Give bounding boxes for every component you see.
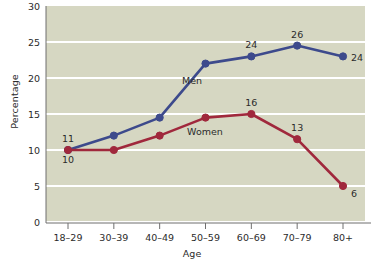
y-tick-label-10: 10 [28, 145, 40, 156]
x-axis-title: Age [0, 248, 384, 259]
value-label-women-5: 13 [291, 122, 303, 133]
data-point-women-2[interactable] [156, 132, 163, 139]
value-label-men-4: 24 [245, 39, 257, 50]
data-point-men-3[interactable] [202, 60, 209, 67]
x-tick-label-4: 60–69 [237, 232, 266, 243]
data-point-men-4[interactable] [248, 53, 255, 60]
data-point-men-5[interactable] [294, 42, 301, 49]
data-point-men-2[interactable] [156, 114, 163, 121]
y-tick-label-15: 15 [28, 109, 40, 120]
y-tick-label-20: 20 [28, 73, 40, 84]
data-point-women-1[interactable] [110, 146, 117, 153]
y-axis-title: Percentage [9, 66, 20, 138]
x-tick-label-2: 40–49 [145, 232, 174, 243]
x-tick-label-6: 80+ [333, 232, 353, 243]
value-label-women-0: 11 [62, 133, 74, 144]
data-point-men-1[interactable] [110, 132, 117, 139]
value-label-women-4: 16 [245, 97, 257, 108]
chart-canvas: 05101520253018–2930–3940–4950–5960–6970–… [0, 0, 384, 267]
x-tick-label-5: 70–79 [283, 232, 312, 243]
data-point-women-3[interactable] [202, 114, 209, 121]
series-annotation-women: Women [187, 126, 223, 137]
value-label-men-0: 10 [62, 154, 74, 165]
x-tick-label-3: 50–59 [191, 232, 220, 243]
y-tick-label-25: 25 [28, 37, 40, 48]
line-chart: 05101520253018–2930–3940–4950–5960–6970–… [0, 0, 384, 267]
value-label-men-6: 24 [351, 52, 363, 63]
x-tick-label-0: 18–29 [54, 232, 83, 243]
series-annotation-men: Men [182, 75, 202, 86]
y-tick-label-0: 0 [34, 217, 40, 228]
data-point-men-6[interactable] [339, 53, 346, 60]
y-tick-label-30: 30 [28, 1, 40, 12]
data-point-women-0[interactable] [64, 146, 71, 153]
value-label-women-6: 6 [351, 188, 357, 199]
data-point-women-4[interactable] [248, 110, 255, 117]
data-point-women-6[interactable] [339, 182, 346, 189]
value-label-men-5: 26 [291, 29, 303, 40]
y-tick-label-5: 5 [34, 181, 40, 192]
x-tick-label-1: 30–39 [99, 232, 128, 243]
data-point-women-5[interactable] [294, 136, 301, 143]
